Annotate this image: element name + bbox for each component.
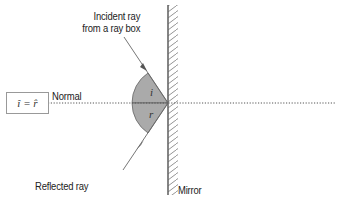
angle-i-label: i — [150, 86, 153, 98]
incident-ray-label: Incident ray from a ray box — [70, 10, 140, 34]
equation-box: î = r̂ — [6, 92, 49, 114]
incident-label-line2: from a ray box — [70, 22, 140, 34]
mirror-label: Mirror — [178, 184, 202, 196]
normal-label: Normal — [52, 90, 81, 102]
incident-label-line1: Incident ray — [70, 10, 140, 22]
mirror-hatching — [168, 5, 178, 195]
reflection-diagram: i r — [0, 0, 340, 208]
angle-r-label: r — [149, 108, 154, 120]
reflected-ray-label: Reflected ray — [35, 180, 88, 192]
incident-arrow-icon — [140, 63, 147, 71]
